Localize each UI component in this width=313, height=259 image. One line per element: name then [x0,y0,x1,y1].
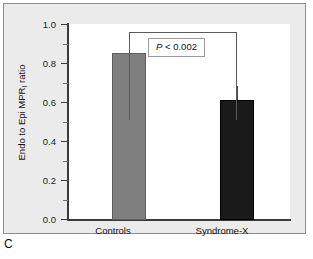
y-tick-label-1: 1.0 [30,20,56,30]
y-axis-title-base: Endo to Epi MPR [16,88,27,161]
y-axis-title: Endo to Epi MPRI ratio [16,43,27,183]
y-tick-label-3: 0.6 [30,98,56,108]
y-tick-label-6: 0.0 [30,215,56,225]
y-tick-label-5: 0.2 [30,176,56,186]
y-tick-label-4: 0.4 [30,137,56,147]
p-value-annotation: P < 0.002 [148,38,205,57]
p-value-text: < 0.002 [162,41,197,52]
y-axis-tick-labels: 1.0 0.8 0.6 0.4 0.2 0.0 [26,4,56,235]
y-axis-title-subscript: I [21,86,28,88]
chart-frame: 1.0 0.8 0.6 0.4 0.2 0.0 Endo to Epi MPRI… [3,3,306,234]
y-axis-title-tail: ratio [16,65,27,86]
y-tick-label-2: 0.8 [30,59,56,69]
panel-label: C [4,238,13,250]
x-tick-label-controls: Controls [83,225,143,236]
figure-panel-c: 1.0 0.8 0.6 0.4 0.2 0.0 Endo to Epi MPRI… [0,0,313,259]
x-tick-label-syndrome-x: Syndrome-X [187,225,257,236]
